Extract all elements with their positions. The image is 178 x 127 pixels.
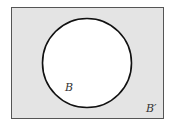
set-b-circle bbox=[43, 19, 132, 108]
venn-diagram: B B′ bbox=[0, 0, 178, 127]
set-b-label: B bbox=[64, 81, 73, 94]
complement-label: B′ bbox=[145, 102, 157, 115]
